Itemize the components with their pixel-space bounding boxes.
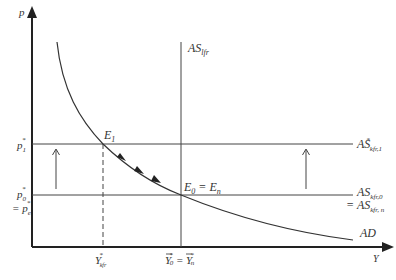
e0-label: E0 = En xyxy=(183,180,221,196)
as-lfr-label: ASlfr xyxy=(187,41,210,57)
ad-curve xyxy=(57,42,353,240)
y-kfr-tick-label: Y*kfr xyxy=(95,251,107,268)
pe-tick-label: = pe* xyxy=(12,199,31,217)
as-kfr-1-label: AS*kfr,1 xyxy=(356,136,382,153)
x-axis-arrow-icon xyxy=(382,242,394,252)
x-axis-label: Y xyxy=(373,253,380,264)
p0-tick-label: p0* xyxy=(16,185,27,203)
ad-as-diagram: p Y ASlfr AS*kfr,1 ASkfr,0 = ASkfr, n AD… xyxy=(0,0,396,280)
y-axis-arrow-icon xyxy=(27,6,37,18)
ad-label: AD xyxy=(359,226,376,240)
e1-label: E1 xyxy=(103,128,115,144)
svg-text:Y*0 = Y*n: Y*0 = Y*n xyxy=(165,251,195,267)
y-axis-label: p xyxy=(18,6,25,18)
y0-tick-label: Y*0 = Y*n xyxy=(165,251,195,267)
p1-tick-label: p1* xyxy=(16,136,26,154)
